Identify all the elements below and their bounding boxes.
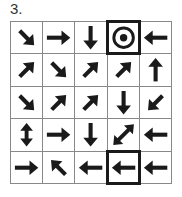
grid-cell[interactable] (140, 22, 172, 54)
grid-cell[interactable] (108, 119, 140, 151)
grid-cell[interactable] (75, 22, 107, 54)
grid-cell[interactable] (140, 152, 172, 184)
grid-cell[interactable] (140, 119, 172, 151)
grid-cell[interactable] (43, 54, 75, 86)
grid-cell[interactable] (43, 119, 75, 151)
grid-cell[interactable] (11, 54, 43, 86)
grid-cell[interactable] (75, 87, 107, 119)
puzzle-number: 3. (10, 0, 23, 17)
grid-cell[interactable] (43, 152, 75, 184)
grid-cell[interactable] (108, 54, 140, 86)
grid-cell[interactable] (11, 119, 43, 151)
grid-cell[interactable] (11, 22, 43, 54)
grid-cell[interactable] (140, 54, 172, 86)
grid-cell[interactable] (75, 54, 107, 86)
grid-cell[interactable] (75, 119, 107, 151)
grid-cell[interactable] (140, 87, 172, 119)
grid-cell[interactable] (43, 87, 75, 119)
grid-cell[interactable] (11, 152, 43, 184)
arrow-grid (10, 21, 172, 184)
grid-cell[interactable] (108, 22, 140, 54)
grid-cell[interactable] (75, 152, 107, 184)
grid-cell[interactable] (11, 87, 43, 119)
grid-cell[interactable] (108, 87, 140, 119)
grid-cell[interactable] (108, 152, 140, 184)
grid-cell[interactable] (43, 22, 75, 54)
